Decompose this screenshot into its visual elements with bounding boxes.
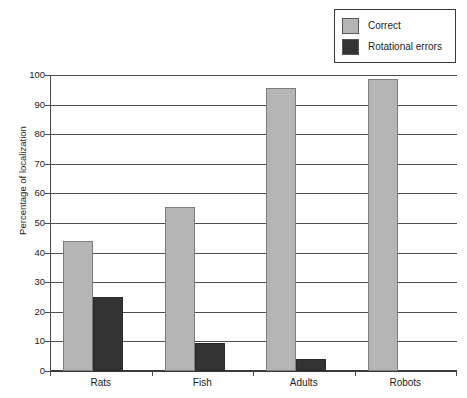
legend-label-correct: Correct — [368, 20, 401, 31]
x-axis-tick-label-fish: Fish — [152, 377, 254, 388]
legend-entry-rotational-errors: Rotational errors — [342, 36, 449, 57]
chart-legend: Correct Rotational errors — [334, 9, 456, 63]
y-axis-tick-label: 50 — [17, 218, 45, 228]
x-axis-tick-mark — [253, 371, 254, 376]
bar-rats-rotational-errors — [93, 297, 123, 371]
y-axis-tick-label: 70 — [17, 159, 45, 169]
bar-rats-correct — [63, 241, 93, 371]
bar-adults-correct — [266, 88, 296, 371]
gridline — [51, 75, 457, 76]
x-axis-tick-label-adults: Adults — [253, 377, 355, 388]
y-axis-labels: 1009080706050403020100 — [12, 0, 45, 398]
y-axis-tick-label: 10 — [17, 336, 45, 346]
x-axis-tick-label-rats: Rats — [50, 377, 152, 388]
y-axis-tick-label: 60 — [17, 188, 45, 198]
y-axis-tick-mark — [45, 75, 50, 76]
legend-label-rotational-errors: Rotational errors — [368, 41, 442, 52]
y-axis-tick-mark — [45, 223, 50, 224]
y-axis-tick-label: 30 — [17, 277, 45, 287]
x-axis-tick-mark — [456, 371, 457, 376]
x-axis-tick-label-robots: Robots — [355, 377, 457, 388]
bar-fish-correct — [165, 207, 195, 371]
y-axis-tick-mark — [45, 312, 50, 313]
y-axis-tick-mark — [45, 134, 50, 135]
y-axis-tick-label: 100 — [17, 70, 45, 80]
y-axis-tick-label: 90 — [17, 100, 45, 110]
y-axis-tick-label: 80 — [17, 129, 45, 139]
y-axis-tick-label: 40 — [17, 248, 45, 258]
y-axis-tick-label: 0 — [17, 366, 45, 376]
y-axis-tick-mark — [45, 193, 50, 194]
y-axis-tick-mark — [45, 341, 50, 342]
y-axis-tick-mark — [45, 105, 50, 106]
y-axis-tick-mark — [45, 253, 50, 254]
y-axis-tick-mark — [45, 282, 50, 283]
plot-area — [50, 75, 456, 371]
y-axis-tick-mark — [45, 164, 50, 165]
y-axis-tick-mark — [45, 371, 50, 372]
bar-robots-correct — [368, 79, 398, 371]
y-axis-tick-label: 20 — [17, 307, 45, 317]
dark-gray-swatch-icon — [342, 39, 359, 55]
x-axis-tick-mark — [152, 371, 153, 376]
bar-adults-rotational-errors — [296, 359, 326, 371]
x-axis-tick-mark — [355, 371, 356, 376]
light-gray-swatch-icon — [342, 18, 359, 34]
legend-entry-correct: Correct — [342, 15, 449, 36]
x-axis-tick-mark — [50, 371, 51, 376]
bar-fish-rotational-errors — [195, 343, 225, 371]
